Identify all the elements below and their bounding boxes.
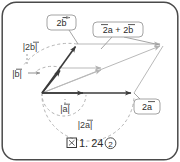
label-abs-a: |a| bbox=[60, 104, 70, 114]
label-abs-2a-text: |2a| bbox=[78, 120, 93, 130]
callout-2b[interactable]: 2b bbox=[47, 15, 76, 30]
figure-container: 2b 2a + 2b 2a |2b| |b| |a| bbox=[0, 0, 180, 162]
callout-2a-plus-2b-label: 2a + 2b bbox=[103, 25, 133, 35]
label-abs-2a: |2a| bbox=[78, 120, 93, 130]
caption-circled-index: 2 bbox=[108, 140, 113, 149]
callout-2a-plus-2b[interactable]: 2a + 2b bbox=[93, 22, 143, 37]
callout-2b-label: 2b bbox=[56, 18, 66, 28]
label-abs-b: |b| bbox=[12, 69, 22, 79]
vector-diagram: 2b 2a + 2b 2a |2b| |b| |a| bbox=[0, 0, 180, 162]
label-abs-2b: |2b| bbox=[23, 42, 39, 52]
label-abs-b-text: |b| bbox=[12, 69, 22, 79]
label-abs-a-text: |a| bbox=[60, 104, 70, 114]
caption-number: 1. 24 bbox=[79, 137, 103, 149]
label-abs-2b-text: |2b| bbox=[23, 42, 38, 52]
callout-2a[interactable]: 2a bbox=[134, 99, 160, 114]
callout-2a-label: 2a bbox=[142, 102, 152, 112]
